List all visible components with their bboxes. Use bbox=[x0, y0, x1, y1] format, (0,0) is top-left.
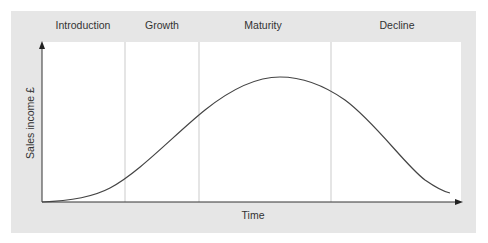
sales-curve bbox=[42, 77, 450, 202]
stage-label-introduction: Introduction bbox=[56, 19, 111, 31]
stage-label-decline: Decline bbox=[379, 19, 414, 31]
y-axis-arrow-icon bbox=[39, 41, 45, 49]
life-cycle-diagram bbox=[0, 0, 488, 243]
stage-label-growth: Growth bbox=[145, 19, 179, 31]
x-axis-arrow-icon bbox=[455, 199, 463, 205]
stage-label-maturity: Maturity bbox=[244, 19, 281, 31]
y-axis-label: Sales income £ bbox=[24, 87, 36, 159]
x-axis-label: Time bbox=[242, 209, 265, 221]
